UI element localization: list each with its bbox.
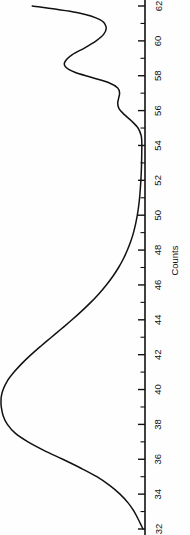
axis-tick-label: 34 — [153, 489, 164, 500]
plot-area: 62605856545250484644424038363432 Counts — [0, 0, 190, 535]
axis-layer: 62605856545250484644424038363432 Counts — [138, 0, 181, 535]
spectrum-chart: 62605856545250484644424038363432 Counts — [0, 0, 190, 535]
axis-tick-label: 60 — [153, 36, 164, 47]
axis-tick-label: 32 — [153, 524, 164, 535]
axis-tick-label: 44 — [153, 315, 164, 326]
axis-tick-label: 36 — [153, 454, 164, 465]
axis-tick-label: 42 — [153, 349, 164, 360]
axis-tick-label: 62 — [153, 1, 164, 12]
data-curve-layer — [1, 6, 143, 529]
axis-title: Counts — [170, 245, 181, 275]
axis-tick-label: 40 — [153, 384, 164, 395]
axis-tick-label: 54 — [153, 140, 164, 151]
axis-tick-label: 48 — [153, 245, 164, 256]
axis-tick-labels: 62605856545250484644424038363432 — [153, 1, 164, 535]
axis-tick-label: 46 — [153, 280, 164, 291]
axis-tick-label: 56 — [153, 105, 164, 116]
axis-tick-label: 50 — [153, 210, 164, 221]
spectrum-curve — [1, 6, 143, 529]
axis-tick-label: 58 — [153, 70, 164, 81]
axis-ticks — [138, 6, 145, 529]
axis-tick-label: 38 — [153, 419, 164, 430]
axis-tick-label: 52 — [153, 175, 164, 186]
